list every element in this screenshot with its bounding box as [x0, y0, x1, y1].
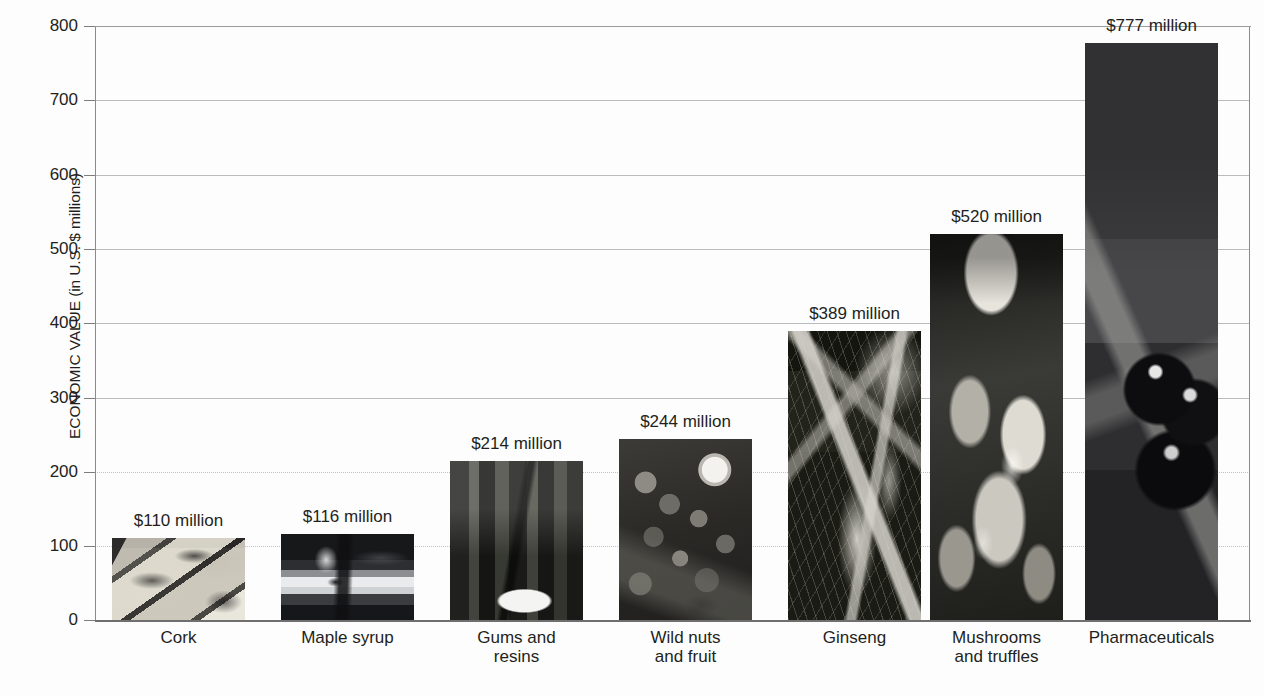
bar-maple-syrup[interactable] [281, 534, 414, 620]
y-axis-tick-label-300: 300 [18, 389, 78, 406]
bar-value-label-pharmaceuticals: $777 million [1085, 17, 1218, 34]
bar-value-label-wild-nuts-and-fruit: $244 million [619, 413, 752, 430]
bar-wild-nuts-and-fruit[interactable] [619, 439, 752, 620]
y-axis-tick-label-800: 800 [18, 17, 78, 34]
y-axis-tick-label-600: 600 [18, 166, 78, 183]
category-label-gums-and-resins: Gums and resins [440, 628, 593, 666]
category-label-line: Ginseng [778, 628, 931, 647]
category-label-line: and truffles [920, 647, 1073, 666]
y-axis-tick-label-0: 0 [18, 611, 78, 628]
y-axis-tick-label-500: 500 [18, 240, 78, 257]
x-axis-baseline [95, 620, 1251, 622]
category-label-line: Cork [102, 628, 255, 647]
bar-chart: ECONOMIC VALUE (in U.S. $ millions) 800 … [0, 0, 1264, 696]
bar-mushrooms-and-truffles[interactable] [930, 234, 1063, 620]
mushrooms-and-truffles-photo [930, 234, 1063, 620]
bar-gums-and-resins[interactable] [450, 461, 583, 620]
y-axis-tick-label-700: 700 [18, 91, 78, 108]
bar-value-label-gums-and-resins: $214 million [450, 435, 583, 452]
y-axis-tick-label-200: 200 [18, 463, 78, 480]
ginseng-roots-photo [788, 331, 921, 620]
category-label-cork: Cork [102, 628, 255, 647]
bar-value-label-maple-syrup: $116 million [281, 508, 414, 525]
cork-stoppers-photo [112, 538, 245, 620]
bar-value-label-cork: $110 million [112, 512, 245, 529]
bar-value-label-mushrooms-and-truffles: $520 million [930, 208, 1063, 225]
category-label-line: Pharmaceuticals [1075, 628, 1228, 647]
y-axis-tick-label-100: 100 [18, 537, 78, 554]
wild-nuts-and-fruit-photo [619, 439, 752, 620]
bar-pharmaceuticals[interactable] [1085, 43, 1218, 620]
medicinal-berries-photo [1085, 43, 1218, 620]
category-label-mushrooms-and-truffles: Mushrooms and truffles [920, 628, 1073, 666]
category-label-line: and fruit [609, 647, 762, 666]
category-label-line: Gums and [440, 628, 593, 647]
bar-ginseng[interactable] [788, 331, 921, 620]
category-label-line: Mushrooms [920, 628, 1073, 647]
category-label-maple-syrup: Maple syrup [271, 628, 424, 647]
category-label-line: resins [440, 647, 593, 666]
y-axis-tick-label-400: 400 [18, 314, 78, 331]
category-label-line: Maple syrup [271, 628, 424, 647]
bar-value-label-ginseng: $389 million [788, 305, 921, 322]
category-label-line: Wild nuts [609, 628, 762, 647]
category-label-pharmaceuticals: Pharmaceuticals [1075, 628, 1228, 647]
maple-syrup-tap-photo [281, 534, 414, 620]
category-label-ginseng: Ginseng [778, 628, 931, 647]
plot-top-border [95, 26, 1251, 27]
y-axis-title-units: (in U.S. $ millions) [66, 173, 83, 301]
bar-cork[interactable] [112, 538, 245, 620]
latex-tapping-cup-photo [450, 461, 583, 620]
category-label-wild-nuts-and-fruit: Wild nuts and fruit [609, 628, 762, 666]
